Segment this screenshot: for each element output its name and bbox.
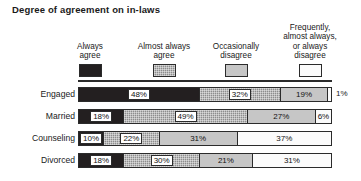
- bar-segment: 21%: [200, 154, 253, 167]
- bar-segment: 48%: [79, 88, 200, 101]
- bar-segment: 31%: [253, 154, 331, 167]
- bar-segment: 30%: [124, 154, 200, 167]
- row-label-divorced: Divorced: [41, 155, 75, 165]
- bar-segment: 49%: [124, 110, 247, 123]
- legend-swatch-light: [225, 64, 248, 77]
- bar-row: Married18%49%27%6%: [0, 108, 361, 130]
- segment-value-label: 49%: [175, 111, 197, 122]
- segment-value-label: 10%: [80, 133, 102, 144]
- segment-value-label: 48%: [128, 89, 150, 100]
- legend-swatch-white: [299, 64, 322, 77]
- bar-row: Counseling10%22%31%37%: [0, 130, 361, 152]
- row-label-engaged: Engaged: [41, 89, 75, 99]
- segment-value-label: 32%: [229, 89, 251, 100]
- legend-swatch-med: [153, 64, 176, 77]
- segment-value-label: 31%: [282, 156, 302, 165]
- stacked-bar: 18%30%21%31%: [78, 153, 332, 168]
- segment-value-label: 30%: [151, 155, 173, 166]
- chart-container: Degree of agreement on in-laws Alwaysagr…: [0, 0, 361, 181]
- bar-segment: 31%: [160, 132, 238, 145]
- bar-segment: 27%: [248, 110, 316, 123]
- bar-row: Divorced18%30%21%31%: [0, 152, 361, 174]
- segment-value-label: 31%: [188, 134, 208, 143]
- bar-segment: 18%: [79, 110, 124, 123]
- segment-value-label: 18%: [90, 155, 112, 166]
- legend-item-label: Frequently,almost always,or alwaysdisagr…: [265, 23, 355, 61]
- bar-rows: Engaged48%32%19%1%1%Married18%49%27%6%Co…: [0, 86, 361, 174]
- row-label-counseling: Counseling: [32, 133, 75, 143]
- bar-segment: 32%: [200, 88, 281, 101]
- bar-segment: 22%: [104, 132, 159, 145]
- row-label-married: Married: [46, 111, 75, 121]
- legend-swatch-dark: [79, 64, 102, 77]
- segment-value-label: 22%: [120, 133, 142, 144]
- segment-value-label: 27%: [271, 112, 291, 121]
- bar-segment: 6%: [316, 110, 331, 123]
- legend-divider-rule: [78, 80, 332, 82]
- bar-row: Engaged48%32%19%1%1%: [0, 86, 361, 108]
- stacked-bar: 18%49%27%6%: [78, 109, 332, 124]
- bar-segment: 1%: [328, 88, 331, 101]
- bar-segment: 19%: [281, 88, 329, 101]
- segment-value-label: 18%: [90, 111, 112, 122]
- outside-value-label: 1%: [336, 89, 348, 98]
- bar-segment: 18%: [79, 154, 124, 167]
- segment-value-label: 19%: [294, 90, 314, 99]
- segment-value-label: 21%: [216, 156, 236, 165]
- stacked-bar: 48%32%19%1%: [78, 87, 332, 102]
- legend-item-3[interactable]: Frequently,almost always,or alwaysdisagr…: [265, 23, 355, 77]
- chart-legend: AlwaysagreeAlmost alwaysagreeOccasionall…: [78, 11, 332, 77]
- bar-segment: 10%: [79, 132, 104, 145]
- stacked-bar: 10%22%31%37%: [78, 131, 332, 146]
- bar-segment: 37%: [238, 132, 331, 145]
- segment-value-label: 6%: [316, 112, 331, 121]
- segment-value-label: 37%: [274, 134, 294, 143]
